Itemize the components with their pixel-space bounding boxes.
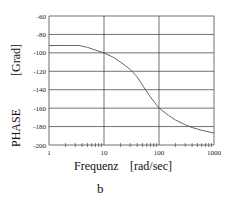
y-tick-label: -80 <box>37 31 47 39</box>
x-tick-label: 100 <box>154 149 165 157</box>
panel-label: b <box>97 181 104 196</box>
x-axis-label: Frequenz <box>74 159 119 173</box>
y-tick-label: -160 <box>33 105 46 113</box>
y-tick-label: -100 <box>33 49 46 57</box>
grid-lines <box>49 16 214 145</box>
x-tick-labels: 1101001000 <box>47 149 221 157</box>
phase-chart: -60-80-100-120-140-160-180-200 110100100… <box>0 0 229 202</box>
y-axis-unit: [Grad] <box>9 44 23 76</box>
x-tick-label: 1 <box>47 149 51 157</box>
x-tick-label: 1000 <box>207 149 222 157</box>
y-tick-labels: -60-80-100-120-140-160-180-200 <box>33 13 46 150</box>
y-tick-label: -180 <box>33 123 46 131</box>
y-axis-label: PHASE <box>9 109 23 147</box>
x-tick-label: 10 <box>101 149 109 157</box>
y-tick-label: -140 <box>33 86 46 94</box>
y-tick-label: -60 <box>37 13 47 21</box>
x-axis-unit: [rad/sec] <box>130 159 172 173</box>
y-tick-label: -120 <box>33 68 46 76</box>
phase-curve <box>49 46 214 134</box>
y-tick-label: -200 <box>33 142 46 150</box>
